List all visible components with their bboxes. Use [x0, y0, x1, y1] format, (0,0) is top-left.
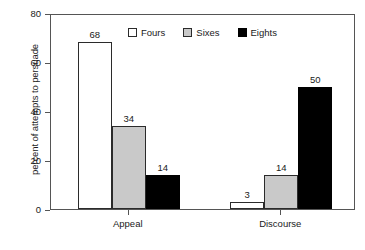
caption-fragment [26, 243, 326, 250]
bar-value-label: 68 [89, 29, 100, 40]
legend-swatch-icon [128, 28, 137, 37]
legend-swatch-icon [183, 28, 192, 37]
legend: FoursSixesEights [128, 27, 277, 38]
legend-label: Fours [141, 27, 165, 38]
plot-area: 68341431450 [50, 14, 355, 210]
bar-appeal-eights[interactable]: 14 [146, 175, 180, 209]
x-axis-tick-mark [128, 210, 129, 215]
legend-label: Eights [251, 27, 277, 38]
bar-discourse-fours[interactable]: 3 [230, 202, 264, 209]
legend-item-fours[interactable]: Fours [128, 27, 165, 38]
x-axis-label-discourse: Discourse [259, 218, 301, 229]
legend-item-eights[interactable]: Eights [238, 27, 277, 38]
y-axis-tick-mark [45, 161, 50, 162]
bar-value-label: 50 [310, 74, 321, 85]
x-axis-label-appeal: Appeal [113, 218, 143, 229]
bar-chart: percent of attempts to persuade 68341431… [0, 0, 365, 250]
y-axis-tick-label: 0 [11, 204, 41, 215]
x-axis-tick-mark [280, 210, 281, 215]
y-axis-tick-label: 80 [11, 8, 41, 19]
y-axis-tick-mark [45, 112, 50, 113]
bar-discourse-eights[interactable]: 50 [298, 87, 332, 210]
y-axis-tick-mark [45, 14, 50, 15]
y-axis-tick-mark [45, 210, 50, 211]
y-axis-tick-mark [45, 63, 50, 64]
bar-value-label: 34 [123, 113, 134, 124]
legend-item-sixes[interactable]: Sixes [183, 27, 219, 38]
bar-discourse-sixes[interactable]: 14 [264, 175, 298, 209]
bar-value-label: 14 [157, 162, 168, 173]
bar-appeal-sixes[interactable]: 34 [112, 126, 146, 209]
y-axis-tick-label: 60 [11, 57, 41, 68]
legend-label: Sixes [196, 27, 219, 38]
bar-group-discourse: 31450 [230, 15, 332, 209]
y-axis-tick-label: 40 [11, 106, 41, 117]
y-axis-tick-label: 20 [11, 155, 41, 166]
bar-value-label: 14 [276, 162, 287, 173]
legend-swatch-icon [238, 28, 247, 37]
bar-group-appeal: 683414 [78, 15, 180, 209]
bar-value-label: 3 [245, 189, 250, 200]
bar-appeal-fours[interactable]: 68 [78, 42, 112, 209]
